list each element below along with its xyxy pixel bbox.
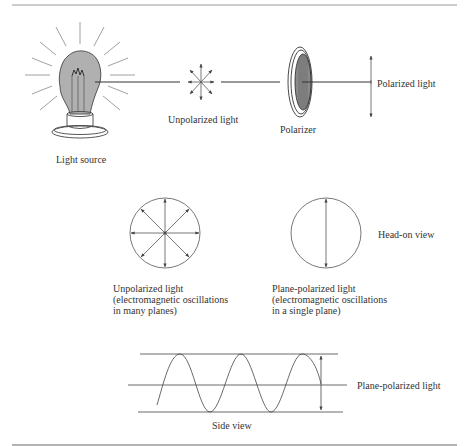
side-view-wave: [128, 354, 347, 412]
light-source-label: Light source: [56, 154, 106, 165]
sine-wave-icon: [157, 354, 321, 412]
plane-caption-line3: in a single plane): [272, 305, 387, 316]
unpolarized-caption-line2: (electromagnetic oscillations: [113, 294, 228, 305]
polarizer-label: Polarizer: [280, 124, 316, 135]
unpolarized-head-on-icon: [130, 198, 200, 268]
light-bulb-icon: [52, 51, 108, 138]
polarized-light-label: Polarized light: [377, 78, 436, 89]
plane-polarized-head-on-icon: [291, 198, 361, 268]
plane-polarized-light-label: Plane-polarized light: [357, 380, 441, 391]
plane-polarized-caption: Plane-polarized light (electromagnetic o…: [272, 283, 387, 316]
unpolarized-caption-line1: Unpolarized light: [113, 283, 228, 294]
unpolarized-caption: Unpolarized light (electromagnetic oscil…: [113, 283, 228, 316]
unpolarized-star-icon: [188, 64, 214, 100]
unpolarized-light-label: Unpolarized light: [168, 114, 238, 125]
head-on-view-label: Head-on view: [378, 229, 434, 240]
plane-caption-line1: Plane-polarized light: [272, 283, 387, 294]
plane-caption-line2: (electromagnetic oscillations: [272, 294, 387, 305]
unpolarized-caption-line3: in many planes): [113, 305, 228, 316]
side-view-label: Side view: [212, 420, 252, 431]
